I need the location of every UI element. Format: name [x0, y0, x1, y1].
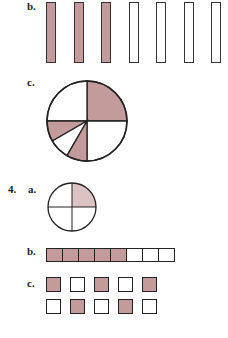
square-empty	[142, 299, 157, 314]
label-b: b.	[27, 245, 36, 257]
strip-cell-empty	[158, 248, 175, 262]
strip-cell-empty	[142, 248, 159, 262]
strip-cell-shaded	[78, 248, 95, 262]
square-shaded	[70, 299, 85, 314]
square-empty	[94, 299, 109, 314]
label-c: c.	[27, 277, 35, 289]
strip-cell-shaded	[94, 248, 111, 262]
square-shaded	[94, 277, 109, 292]
label-b-top: b.	[27, 0, 36, 12]
bar-empty	[156, 2, 166, 63]
square-shaded	[46, 277, 61, 292]
label-question-4: 4.	[8, 183, 16, 195]
label-a: a.	[28, 183, 36, 195]
square-shaded	[142, 277, 157, 292]
bar-shaded	[74, 2, 84, 63]
bar-shaded	[46, 2, 56, 63]
square-empty	[46, 299, 61, 314]
bar-empty	[129, 2, 139, 63]
bar-shaded	[101, 2, 111, 63]
strip-cell-empty	[126, 248, 143, 262]
strip-cell-shaded	[110, 248, 127, 262]
strip-cell-shaded	[46, 248, 63, 262]
pie-figure	[46, 80, 128, 162]
quartered-circle-figure	[47, 182, 97, 232]
square-empty	[70, 277, 85, 292]
bar-empty	[211, 2, 221, 63]
strip-cell-shaded	[62, 248, 79, 262]
square-shaded	[118, 299, 133, 314]
bar-empty	[184, 2, 194, 63]
square-empty	[118, 277, 133, 292]
label-c-top: c.	[27, 76, 35, 88]
